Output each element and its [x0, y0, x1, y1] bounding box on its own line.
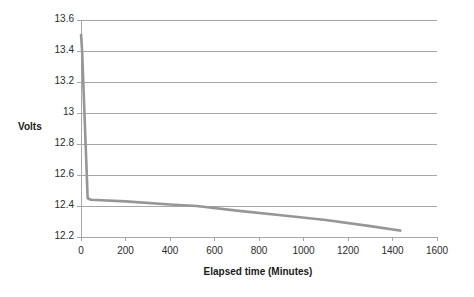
plot-area [0, 0, 474, 297]
gridlines-group [81, 20, 437, 206]
tick-marks-group [77, 20, 437, 241]
axes-group [81, 20, 437, 237]
data-line-volts [81, 34, 401, 231]
data-series-group [81, 34, 401, 231]
chart-container: Volts Elapsed time (Minutes) 12.212.412.… [0, 0, 474, 297]
